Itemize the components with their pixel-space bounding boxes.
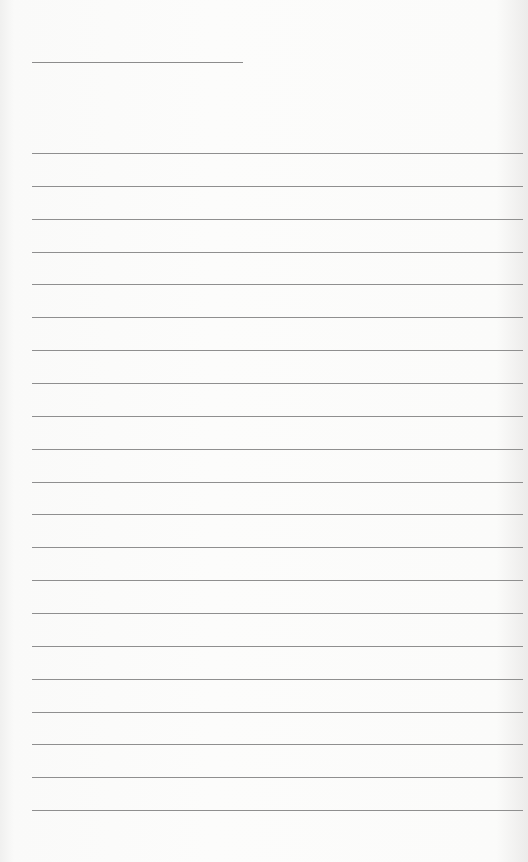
ruled-line	[32, 744, 523, 745]
ruled-line	[32, 646, 523, 647]
ruled-line	[32, 613, 523, 614]
ruled-line	[32, 449, 523, 450]
ruled-line	[32, 350, 523, 351]
ruled-line	[32, 153, 523, 154]
title-line	[32, 62, 243, 63]
ruled-line	[32, 580, 523, 581]
ruled-line	[32, 679, 523, 680]
ruled-line	[32, 284, 523, 285]
lined-paper	[0, 0, 528, 862]
ruled-line	[32, 482, 523, 483]
ruled-line	[32, 186, 523, 187]
ruled-line	[32, 514, 523, 515]
ruled-line	[32, 547, 523, 548]
ruled-line	[32, 777, 523, 778]
ruled-line	[32, 810, 523, 811]
ruled-line	[32, 252, 523, 253]
ruled-line	[32, 712, 523, 713]
ruled-line	[32, 317, 523, 318]
ruled-line	[32, 219, 523, 220]
ruled-line	[32, 383, 523, 384]
ruled-line	[32, 416, 523, 417]
